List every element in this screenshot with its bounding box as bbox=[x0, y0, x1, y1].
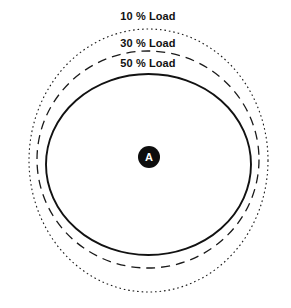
contour-label-load-50: 50 % Load bbox=[117, 57, 178, 69]
contour-label-load-10: 10 % Load bbox=[117, 10, 178, 22]
contour-label-load-30: 30 % Load bbox=[117, 37, 178, 49]
node-label-a: A bbox=[145, 152, 153, 163]
load-contour-diagram: 10 % Load 30 % Load 50 % Load A bbox=[0, 0, 291, 308]
